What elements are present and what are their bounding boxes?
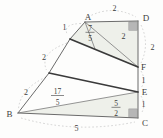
vertex-label-e: E	[142, 87, 148, 97]
measure-left-lower-2: 2	[24, 88, 28, 97]
geometry-diagram: A D F E C B 2 2 1 1 5 1 2 2 2 7 5 17 5 5…	[0, 0, 163, 138]
right-angle-marker-d	[129, 22, 137, 30]
measure-inner-af: 2	[122, 32, 126, 41]
geometry-diagram-canvas: A D F E C B 2 2 1 1 5 1 2 2 2 7 5 17 5 5…	[0, 0, 163, 138]
measure-right-df: 2	[151, 43, 155, 52]
measure-right-ec: 1	[142, 100, 146, 109]
right-angle-marker-c	[129, 109, 137, 117]
measure-right-fe: 1	[142, 76, 146, 85]
fraction-17-5-numerator: 17	[54, 87, 62, 96]
fraction-5-2-denominator: 2	[114, 109, 118, 118]
fraction-7-5-numerator: 7	[88, 24, 92, 33]
fraction-5-2-numerator: 5	[114, 99, 118, 108]
measure-left-upper-1: 1	[63, 23, 67, 32]
fraction-17-5: 17 5	[51, 87, 64, 107]
fraction-17-5-denominator: 5	[56, 98, 60, 107]
vertex-label-b: B	[6, 109, 12, 119]
fraction-7-5-denominator: 5	[88, 34, 92, 43]
cut-line-p2e	[49, 73, 138, 92]
measure-left-mid-2: 2	[42, 53, 46, 62]
measure-top-ad: 2	[113, 4, 117, 13]
dim-arc-right-df	[141, 25, 146, 63]
vertex-label-d: D	[143, 13, 150, 23]
vertex-label-c: C	[142, 118, 148, 128]
vertex-label-f: F	[141, 62, 146, 72]
dim-arc-left-mid	[45, 43, 67, 70]
vertex-label-a: A	[85, 12, 92, 22]
measure-bottom-bc: 5	[75, 124, 79, 133]
